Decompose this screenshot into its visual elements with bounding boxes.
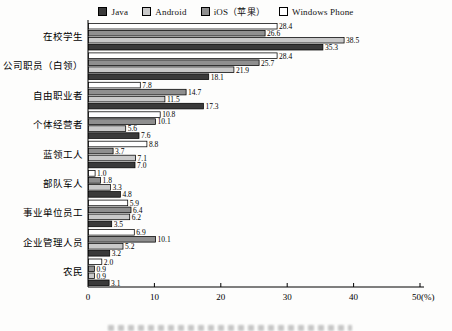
bar-windowsphone-2 bbox=[89, 82, 141, 88]
x-tick-label-20: 20 bbox=[216, 292, 226, 302]
bar-java-0 bbox=[89, 44, 323, 50]
category-label-8: 农民 bbox=[63, 266, 83, 277]
bar-windowsphone-0 bbox=[89, 23, 278, 29]
bar-value-label: 10.1 bbox=[158, 117, 171, 126]
x-tick-label-30: 30 bbox=[283, 292, 293, 302]
bar-value-label: 3.1 bbox=[111, 279, 121, 288]
bar-value-label: 1.8 bbox=[103, 176, 113, 185]
bar-value-label: 38.5 bbox=[346, 36, 359, 45]
bar-value-label: 17.3 bbox=[205, 102, 218, 111]
category-label-7: 企业管理人员 bbox=[23, 237, 83, 248]
bar-value-label: 5.2 bbox=[125, 242, 135, 251]
bar-value-label: 8.8 bbox=[149, 140, 159, 149]
bar-ios-1 bbox=[89, 60, 260, 66]
bar-value-label: 3.3 bbox=[112, 183, 122, 192]
bar-value-label: 14.7 bbox=[188, 88, 201, 97]
bar-value-label: 6.2 bbox=[132, 213, 142, 222]
bar-android-6 bbox=[89, 214, 130, 220]
bar-value-label: 18.1 bbox=[211, 73, 224, 82]
bar-value-label: 28.4 bbox=[279, 22, 292, 31]
x-tick-label-10: 10 bbox=[150, 292, 160, 302]
bar-ios-7 bbox=[89, 237, 156, 243]
bar-value-label: 21.9 bbox=[236, 66, 249, 75]
bar-android-8 bbox=[89, 273, 95, 279]
bar-java-1 bbox=[89, 74, 209, 80]
bar-java-5 bbox=[89, 192, 121, 198]
bar-value-label: 3.5 bbox=[114, 220, 124, 229]
bar-value-label: 10.1 bbox=[158, 235, 171, 244]
bar-value-label: 7.0 bbox=[137, 161, 147, 170]
category-label-5: 部队军人 bbox=[43, 178, 83, 189]
bar-ios-5 bbox=[89, 178, 101, 184]
bar-value-label: 5.6 bbox=[128, 124, 138, 133]
bar-windowsphone-5 bbox=[89, 171, 96, 177]
bar-android-2 bbox=[89, 96, 165, 102]
category-label-3: 个体经营者 bbox=[33, 119, 83, 130]
bar-java-3 bbox=[89, 133, 140, 139]
bar-ios-0 bbox=[89, 30, 266, 36]
bar-value-label: 11.5 bbox=[167, 95, 180, 104]
bar-value-label: 26.6 bbox=[267, 29, 280, 38]
bar-android-0 bbox=[89, 37, 345, 43]
bar-value-label: 7.8 bbox=[142, 81, 152, 90]
bar-value-label: 28.4 bbox=[279, 52, 292, 61]
bar-ios-3 bbox=[89, 119, 156, 125]
bar-java-7 bbox=[89, 251, 110, 257]
bar-android-3 bbox=[89, 126, 126, 132]
bar-java-6 bbox=[89, 221, 112, 227]
bar-ios-4 bbox=[89, 148, 114, 154]
bar-value-label: 0.9 bbox=[97, 272, 107, 281]
bar-windowsphone-3 bbox=[89, 112, 161, 118]
bar-ios-8 bbox=[89, 266, 95, 272]
bar-java-4 bbox=[89, 162, 136, 168]
bar-windowsphone-7 bbox=[89, 230, 135, 236]
x-tick-label-40: 40 bbox=[349, 292, 359, 302]
x-tick-label-50: 50(%) bbox=[412, 292, 435, 302]
bar-value-label: 25.7 bbox=[261, 59, 274, 68]
cutoff-caption-remnant bbox=[108, 325, 352, 331]
bar-java-8 bbox=[89, 280, 110, 286]
bar-android-5 bbox=[89, 185, 111, 191]
bar-value-label: 35.3 bbox=[325, 43, 338, 52]
bar-windowsphone-6 bbox=[89, 200, 128, 206]
category-label-0: 在校学生 bbox=[43, 31, 83, 42]
bar-value-label: 6.9 bbox=[136, 228, 146, 237]
category-label-6: 事业单位员工 bbox=[23, 207, 83, 218]
bar-android-4 bbox=[89, 155, 136, 161]
category-label-1: 公司职员（白领） bbox=[3, 60, 83, 71]
bar-java-2 bbox=[89, 103, 204, 109]
bar-windowsphone-1 bbox=[89, 53, 278, 59]
x-tick-label-0: 0 bbox=[86, 292, 91, 302]
bar-ios-6 bbox=[89, 207, 132, 213]
bar-value-label: 3.7 bbox=[115, 147, 125, 156]
category-label-2: 自由职业者 bbox=[33, 90, 83, 101]
category-label-4: 蓝领工人 bbox=[43, 149, 83, 160]
